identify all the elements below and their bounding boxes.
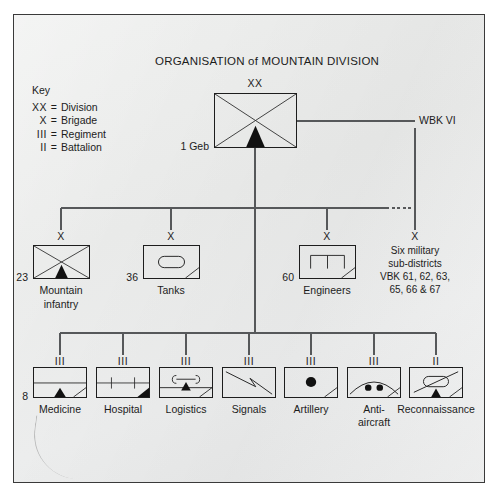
anti-aircraft-icon (348, 368, 400, 397)
artillery-icon (285, 368, 337, 397)
division-designation: 1 Geb (180, 140, 212, 152)
key-row-regiment: III = Regiment (32, 128, 106, 142)
brigade-2-echelon: X (167, 230, 175, 242)
regiment-4-unit-box[interactable] (222, 367, 276, 398)
brigade-1-label-line2: infantry (44, 298, 78, 310)
key-heading: Key (32, 84, 106, 98)
regiment-7-echelon: II (433, 355, 440, 367)
regiment-1-designation: 8 (22, 390, 31, 402)
brigade-3-unit-box[interactable] (299, 245, 356, 279)
brigade-1-echelon: X (57, 230, 65, 242)
division-echelon: XX (247, 77, 262, 89)
subdistricts-echelon: X (411, 230, 419, 242)
brigade-2-designation: 36 (126, 271, 141, 283)
brigade-2-label-line1: Tanks (157, 284, 184, 296)
regiment-6-label-line1: Anti- (363, 403, 385, 415)
regiment-5-unit-box[interactable] (284, 367, 338, 398)
brigade-2-unit-box[interactable] (143, 245, 200, 279)
mountain-infantry-division-icon (215, 94, 296, 147)
regiment-6-label-line2: aircraft (358, 416, 390, 428)
armour-icon (144, 246, 199, 278)
wbk-label: WBK VI (419, 114, 456, 126)
medical-mountain-icon (34, 368, 86, 397)
key-meaning-division: Division (57, 101, 106, 115)
brigade-1-designation: 23 (16, 271, 31, 283)
regiment-4-echelon: III (244, 355, 254, 367)
regiment-5-echelon: III (306, 355, 316, 367)
regiment-2-unit-box[interactable] (96, 367, 150, 398)
page-fold-artifact (28, 415, 81, 479)
regiment-1-unit-box[interactable] (33, 367, 87, 398)
key-row-brigade: X = Brigade (32, 114, 106, 128)
regiment-4-label: Signals (232, 403, 266, 415)
regiment-2-label: Hospital (104, 403, 142, 415)
regiment-5-label: Artillery (293, 403, 328, 415)
regiment-3-echelon: III (181, 355, 191, 367)
brigade-1-unit-box[interactable] (33, 245, 90, 279)
brigade-3-designation: 60 (282, 271, 297, 283)
division-unit-box[interactable] (214, 93, 297, 148)
diagram-root: ORGANISATION of MOUNTAIN DIVISION Key XX… (0, 0, 497, 503)
key-meaning-regiment: Regiment (57, 128, 106, 142)
regiment-1-label: Medicine (39, 403, 81, 415)
key-symbol-ii: II (32, 141, 51, 155)
engineers-icon (300, 246, 355, 278)
key-eq-2: = (51, 128, 57, 142)
key-meaning-brigade: Brigade (57, 114, 106, 128)
reconnaissance-mountain-icon (410, 368, 462, 397)
regiment-6-echelon: III (369, 355, 379, 367)
subdistricts-line1: Six military (391, 245, 439, 256)
key-symbol-iii: III (32, 128, 51, 142)
key-meaning-battalion: Battalion (57, 141, 106, 155)
regiment-7-unit-box[interactable] (409, 367, 463, 398)
key-legend: Key XX = Division X = Brigade III = Regi… (32, 84, 106, 155)
signals-icon (223, 368, 275, 397)
key-row-battalion: II = Battalion (32, 141, 106, 155)
mountain-infantry-icon (34, 246, 89, 278)
key-symbol-xx: XX (32, 101, 51, 115)
regiment-7-label: Reconnaissance (397, 403, 475, 415)
brigade-3-echelon: X (323, 230, 331, 242)
supply-mountain-icon (160, 368, 212, 397)
subdistricts-line3: VBK 61, 62, 63, (380, 271, 450, 282)
subdistricts-line4: 65, 66 & 67 (389, 284, 440, 295)
regiment-6-unit-box[interactable] (347, 367, 401, 398)
key-symbol-x: X (32, 114, 51, 128)
key-eq-3: = (51, 141, 57, 155)
key-table: XX = Division X = Brigade III = Regiment… (32, 101, 106, 155)
hospital-icon (97, 368, 149, 397)
key-eq-0: = (51, 101, 57, 115)
regiment-2-echelon: III (118, 355, 128, 367)
subdistricts-line2: sub-districts (388, 258, 441, 269)
key-row-division: XX = Division (32, 101, 106, 115)
key-eq-1: = (51, 114, 57, 128)
page-title: ORGANISATION of MOUNTAIN DIVISION (155, 55, 379, 67)
brigade-1-label-line1: Mountain (39, 284, 82, 296)
regiment-1-echelon: III (55, 355, 65, 367)
brigade-3-label-line1: Engineers (303, 284, 350, 296)
regiment-3-label: Logistics (166, 403, 207, 415)
regiment-3-unit-box[interactable] (159, 367, 213, 398)
